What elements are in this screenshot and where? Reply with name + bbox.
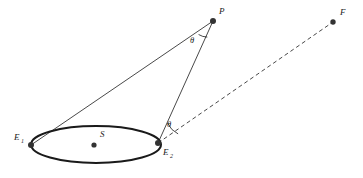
label-theta-at-e2: θ	[167, 119, 171, 129]
point-e1-dot	[28, 142, 34, 148]
label-point-e1-subscript: 1	[21, 138, 24, 144]
label-point-e1: E	[13, 132, 20, 142]
diagram-canvas: P F S E 1 E 2 θ θ	[0, 0, 363, 178]
label-point-f: F	[339, 7, 346, 17]
label-point-s: S	[100, 129, 105, 139]
point-f-dot	[330, 19, 335, 24]
point-p-dot	[210, 18, 216, 24]
label-point-e2-subscript: 2	[170, 153, 173, 159]
label-theta-at-p: θ	[190, 35, 194, 45]
label-point-e2: E	[162, 147, 169, 157]
ellipse-reflection-diagram: P F S E 1 E 2 θ θ	[0, 0, 363, 178]
point-s-dot	[91, 142, 96, 147]
segment-e1-to-p	[31, 21, 213, 145]
point-e2-dot	[155, 140, 161, 146]
label-point-p: P	[218, 6, 225, 16]
